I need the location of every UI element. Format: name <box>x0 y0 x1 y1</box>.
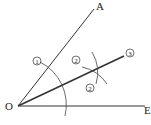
angle-bisector-diagram: O A E 1 2 2 3 <box>0 0 151 125</box>
ray-OA <box>18 9 94 106</box>
svg-text:1: 1 <box>35 58 39 66</box>
svg-text:2: 2 <box>88 85 92 93</box>
svg-text:3: 3 <box>128 50 132 58</box>
step-marker-2a: 2 <box>72 56 80 65</box>
label-E: E <box>144 104 151 116</box>
label-O: O <box>5 100 13 112</box>
step-marker-2b: 2 <box>86 84 94 93</box>
step-marker-3: 3 <box>126 49 134 58</box>
step-marker-1: 1 <box>33 57 41 66</box>
label-A: A <box>96 0 104 12</box>
svg-text:2: 2 <box>74 57 78 65</box>
